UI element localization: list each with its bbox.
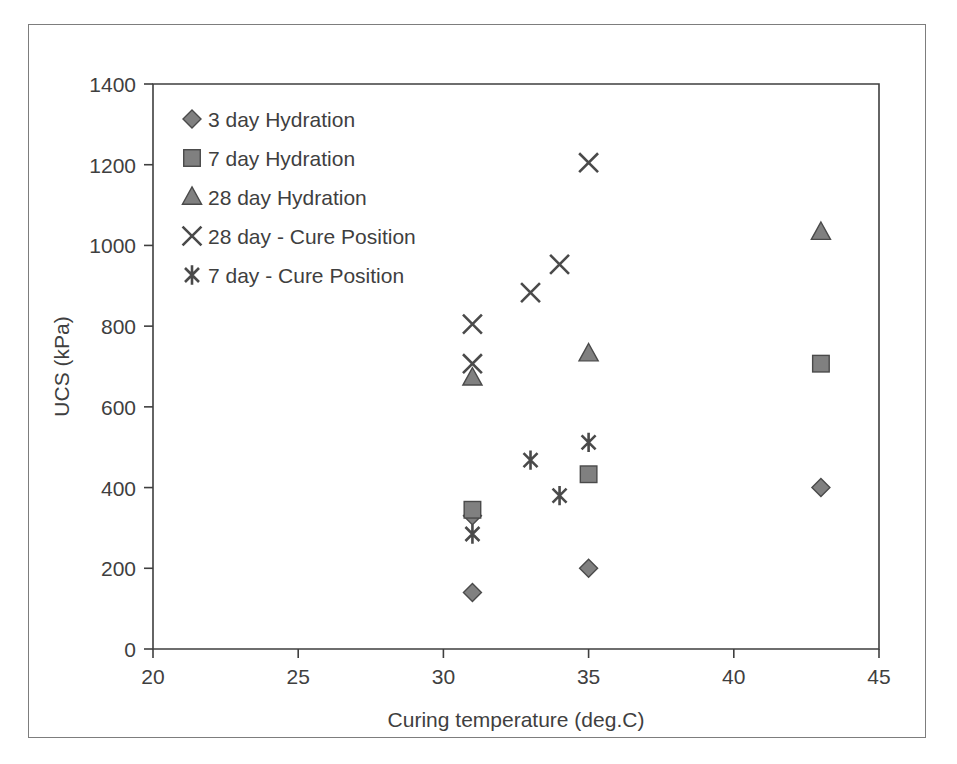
point-5-3: [553, 486, 567, 505]
series-5: [465, 433, 595, 544]
diamond-marker: [812, 479, 830, 497]
square-marker: [813, 355, 830, 372]
diamond-marker: [463, 584, 481, 602]
x-tick-label-35: 35: [577, 665, 600, 688]
legend-label-4: 28 day - Cure Position: [208, 225, 416, 248]
x-tick-label-30: 30: [432, 665, 455, 688]
figure-frame: 0200400600800100012001400202530354045Cur…: [28, 24, 926, 738]
triangle-marker: [182, 187, 201, 204]
y-tick-label-400: 400: [101, 477, 136, 500]
series-3: [463, 222, 831, 385]
x-tick-label-45: 45: [867, 665, 890, 688]
x-axis-title: Curing temperature (deg.C): [388, 708, 645, 731]
y-tick-label-1200: 1200: [89, 154, 136, 177]
square-marker: [580, 466, 597, 483]
x-cross-marker: [521, 283, 540, 302]
point-5-4: [582, 433, 596, 452]
legend-label-2: 7 day Hydration: [208, 147, 355, 170]
x-tick-label-25: 25: [287, 665, 310, 688]
point-4-4: [550, 255, 569, 274]
point-2-3: [813, 355, 830, 372]
six-star-marker: [465, 524, 479, 543]
point-1-4: [812, 479, 830, 497]
six-star-marker: [524, 450, 538, 469]
six-star-marker: [185, 265, 199, 284]
triangle-marker: [579, 344, 598, 361]
point-2-2: [580, 466, 597, 483]
legend-marker-2: [184, 150, 201, 167]
chart-legend: 3 day Hydration7 day Hydration28 day Hyd…: [182, 108, 415, 287]
y-tick-label-1400: 1400: [89, 73, 136, 96]
legend-label-3: 28 day Hydration: [208, 186, 367, 209]
legend-item-2[interactable]: 7 day Hydration: [184, 147, 355, 170]
y-axis-title: UCS (kPa): [50, 316, 73, 416]
x-tick-label-20: 20: [141, 665, 164, 688]
triangle-marker: [811, 222, 830, 239]
legend-marker-5: [185, 265, 199, 284]
point-1-3: [580, 559, 598, 577]
data-points: [463, 153, 831, 601]
square-marker: [184, 150, 201, 167]
point-2-1: [464, 501, 481, 518]
x-cross-marker: [183, 227, 202, 246]
six-star-marker: [582, 433, 596, 452]
point-1-1: [463, 584, 481, 602]
x-tick-label-40: 40: [722, 665, 745, 688]
legend-label-5: 7 day - Cure Position: [208, 264, 404, 287]
legend-item-4[interactable]: 28 day - Cure Position: [183, 225, 416, 248]
point-3-3: [811, 222, 830, 239]
point-4-3: [521, 283, 540, 302]
square-marker: [464, 501, 481, 518]
y-tick-label-0: 0: [124, 638, 136, 661]
legend-label-1: 3 day Hydration: [208, 108, 355, 131]
legend-item-3[interactable]: 28 day Hydration: [182, 186, 366, 209]
legend-marker-1: [183, 110, 201, 128]
diamond-marker: [183, 110, 201, 128]
point-4-1: [463, 315, 482, 334]
scatter-chart: 0200400600800100012001400202530354045Cur…: [29, 25, 927, 739]
x-cross-marker: [550, 255, 569, 274]
series-1: [463, 479, 829, 602]
axes: 0200400600800100012001400202530354045Cur…: [50, 73, 891, 731]
y-tick-label-1000: 1000: [89, 234, 136, 257]
series-4: [463, 153, 598, 373]
point-5-1: [465, 524, 479, 543]
point-5-2: [524, 450, 538, 469]
x-cross-marker: [579, 153, 598, 172]
y-tick-label-600: 600: [101, 396, 136, 419]
legend-item-1[interactable]: 3 day Hydration: [183, 108, 355, 131]
legend-marker-4: [183, 227, 202, 246]
six-star-marker: [553, 486, 567, 505]
x-cross-marker: [463, 315, 482, 334]
legend-marker-3: [182, 187, 201, 204]
series-2: [464, 355, 829, 518]
diamond-marker: [580, 559, 598, 577]
point-4-5: [579, 153, 598, 172]
point-3-2: [579, 344, 598, 361]
y-tick-label-200: 200: [101, 557, 136, 580]
y-tick-label-800: 800: [101, 315, 136, 338]
chart-page: 0200400600800100012001400202530354045Cur…: [0, 0, 957, 764]
legend-item-5[interactable]: 7 day - Cure Position: [185, 264, 404, 287]
